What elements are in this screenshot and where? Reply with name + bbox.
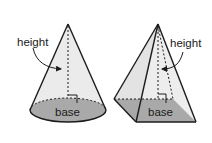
pyramid-base-label: base bbox=[148, 106, 173, 118]
pyramid-height-label: height bbox=[170, 37, 202, 49]
cone-figure: height base bbox=[17, 24, 106, 122]
pyramid-figure: height base bbox=[114, 24, 202, 122]
geometry-diagram: height base height base bbox=[0, 0, 212, 143]
cone-height-label: height bbox=[17, 36, 49, 48]
cone-base-label: base bbox=[55, 106, 80, 118]
